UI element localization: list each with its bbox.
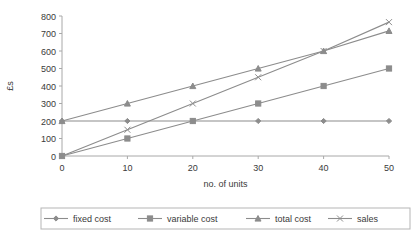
legend-item-sales[interactable]: sales <box>328 214 379 224</box>
x-tick-label: 40 <box>319 163 329 173</box>
data-point-sales-20 <box>190 101 196 107</box>
x-tick-label: 20 <box>188 163 198 173</box>
y-tick-label: 0 <box>51 152 56 162</box>
data-point-fixed-cost-40 <box>321 118 326 123</box>
square-marker <box>125 136 130 141</box>
legend-item-fixed-cost[interactable]: fixed cost <box>44 214 112 224</box>
legend-item-total-cost[interactable]: total cost <box>246 214 312 224</box>
square-marker <box>386 66 391 71</box>
legend-label: fixed cost <box>73 214 112 224</box>
square-marker <box>256 101 261 106</box>
legend-label: sales <box>357 214 379 224</box>
y-tick-label: 400 <box>41 82 56 92</box>
legend-item-variable-cost[interactable]: variable cost <box>138 214 218 224</box>
square-marker <box>190 118 195 123</box>
legend-marker-diamond <box>53 216 58 221</box>
data-point-sales-50 <box>386 19 392 25</box>
diamond-marker <box>125 118 130 123</box>
y-tick-label: 600 <box>41 47 56 57</box>
legend-label: variable cost <box>167 214 218 224</box>
diamond-marker <box>53 216 58 221</box>
line-chart: 010020030040050060070080001020304050no. … <box>0 0 417 237</box>
data-point-variable-cost-40 <box>321 83 326 88</box>
legend-marker-square <box>147 216 152 221</box>
diamond-marker <box>321 118 326 123</box>
y-tick-label: 700 <box>41 29 56 39</box>
chart-container: 010020030040050060070080001020304050no. … <box>0 0 417 237</box>
diamond-marker <box>386 118 391 123</box>
x-tick-label: 50 <box>384 163 394 173</box>
y-tick-label: 500 <box>41 64 56 74</box>
y-tick-label: 300 <box>41 99 56 109</box>
data-point-variable-cost-30 <box>256 101 261 106</box>
x-tick-label: 0 <box>59 163 64 173</box>
series-line-total-cost <box>62 31 389 121</box>
y-tick-label: 100 <box>41 134 56 144</box>
y-axis-title: £s <box>5 81 15 91</box>
y-tick-label: 800 <box>41 12 56 22</box>
series-line-sales <box>62 22 389 156</box>
legend-label: total cost <box>275 214 312 224</box>
data-point-sales-30 <box>255 74 261 80</box>
y-tick-label: 200 <box>41 117 56 127</box>
square-marker <box>147 216 152 221</box>
data-point-variable-cost-20 <box>190 118 195 123</box>
data-point-variable-cost-10 <box>125 136 130 141</box>
data-point-fixed-cost-30 <box>256 118 261 123</box>
square-marker <box>321 83 326 88</box>
diamond-marker <box>256 118 261 123</box>
series-line-variable-cost <box>62 69 389 157</box>
data-point-sales-10 <box>124 127 130 133</box>
data-point-total-cost-50 <box>386 28 392 34</box>
data-point-variable-cost-50 <box>386 66 391 71</box>
x-axis-title: no. of units <box>203 179 248 189</box>
x-tick-label: 30 <box>253 163 263 173</box>
data-point-fixed-cost-10 <box>125 118 130 123</box>
x-tick-label: 10 <box>122 163 132 173</box>
data-point-fixed-cost-50 <box>386 118 391 123</box>
triangle-marker <box>386 28 392 34</box>
